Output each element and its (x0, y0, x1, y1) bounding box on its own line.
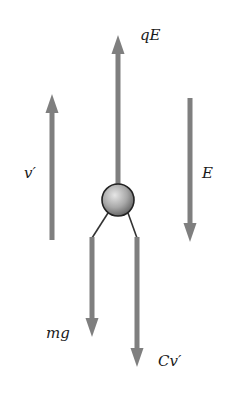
weight-arrow-icon (86, 237, 99, 337)
electric-force-arrow-icon (112, 35, 125, 185)
field-arrow-icon (184, 98, 197, 242)
charged-particle-icon (102, 184, 134, 216)
drag-label: Cv′ (158, 354, 181, 369)
force-diagram-canvas (0, 0, 228, 396)
electric-force-label: qE (140, 28, 161, 43)
drag-arrow-icon (131, 237, 144, 367)
force-diagram: qE v′ E mg Cv′ (0, 0, 228, 396)
field-label: E (202, 166, 213, 181)
weight-label: mg (46, 326, 70, 341)
velocity-arrow-icon (46, 94, 59, 240)
connector-lines (92, 213, 137, 238)
velocity-label: v′ (24, 166, 36, 181)
